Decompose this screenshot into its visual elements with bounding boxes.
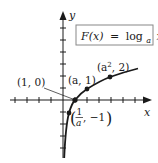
point-a2-2 — [108, 75, 113, 80]
function-base: a — [146, 36, 151, 45]
label-point-a-1: (a, 1) — [68, 74, 96, 86]
y-axis-arrow-icon — [60, 11, 67, 20]
x-axis-label: x — [144, 106, 151, 119]
point-y-value: , −1 — [83, 111, 105, 123]
y-axis-label: y — [68, 9, 76, 22]
function-log: log — [126, 30, 143, 43]
svg-text:): ) — [106, 109, 112, 128]
function-label-box: F(x) = log a x — [76, 25, 158, 46]
function-arg: x — [157, 30, 158, 43]
function-lhs: F(x) — [80, 30, 103, 43]
log-function-graph: x y F(x) = log a x — [0, 0, 158, 163]
fraction-denominator: a — [76, 118, 81, 128]
fraction-numerator: 1 — [77, 107, 83, 117]
label-point-a2-2: (a2, 2) — [97, 61, 129, 73]
label-point-inv-a-neg1: ( 1 a , −1 ) — [70, 107, 112, 128]
point-1-0-leader-line — [44, 88, 74, 100]
label-point-1-0: (1, 0) — [17, 76, 45, 88]
x-axis-arrow-icon — [143, 97, 152, 104]
function-equals: = — [110, 30, 119, 43]
point-a-1 — [85, 87, 90, 92]
point-1-0 — [72, 97, 77, 102]
